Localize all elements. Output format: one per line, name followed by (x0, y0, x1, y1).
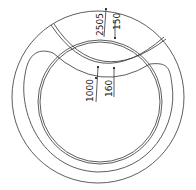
inner-circle-outer-line (38, 40, 162, 164)
dim-label-160: 160 (104, 80, 114, 97)
technical-drawing: 2505 150 1000 160 (0, 0, 196, 190)
dim-label-150: 150 (112, 13, 122, 30)
top-arc-band-upper (51, 25, 164, 63)
drawing-caption (40, 180, 180, 188)
inner-circle-inner-line (40, 42, 160, 162)
dim-line-1000 (96, 67, 98, 102)
dim-label-2505: 2505 (95, 13, 105, 36)
dim-label-1000: 1000 (85, 79, 95, 102)
